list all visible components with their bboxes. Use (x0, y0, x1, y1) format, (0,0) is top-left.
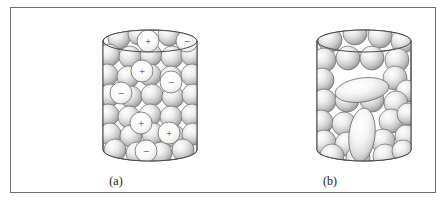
panel-a-drawing: + − + − − + + − (11, 8, 221, 173)
charge-symbol-positive: + (166, 127, 172, 139)
charge-symbol-positive: + (145, 35, 151, 47)
figure-root: + − + − − + + − (a) (0, 0, 446, 206)
charge-symbol-negative: − (168, 76, 174, 88)
panel-b: (b) (225, 8, 435, 194)
cylinder-b-svg (225, 8, 435, 173)
charge-symbol-negative: − (184, 35, 190, 47)
panel-a: + − + − − + + − (a) (11, 8, 221, 194)
charge-symbol-negative: − (118, 87, 124, 99)
panel-b-drawing (225, 8, 435, 173)
charge-symbol-positive: + (139, 65, 145, 77)
figure-frame: + − + − − + + − (a) (10, 7, 436, 193)
cylinder-a-svg: + − + − − + + − (11, 8, 221, 173)
charge-symbol-positive: + (138, 117, 144, 129)
panel-b-caption: (b) (225, 174, 435, 189)
panel-a-caption: (a) (11, 174, 221, 189)
charge-symbol-negative: − (143, 145, 149, 157)
